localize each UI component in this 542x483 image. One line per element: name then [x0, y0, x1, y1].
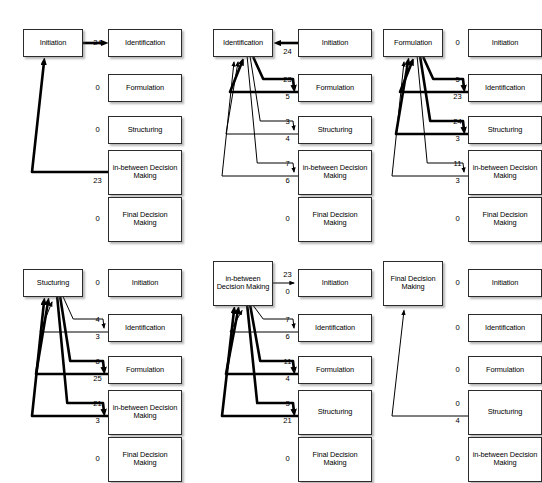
target-box-in-between-decision-making: in-between Decision Making: [468, 150, 542, 195]
target-box-formulation: Formulation: [298, 74, 372, 102]
edge-out-value-final-decision-making: 0: [448, 214, 468, 223]
box-label: Formulation: [485, 366, 525, 374]
target-box-structuring: Structuring: [298, 116, 372, 144]
panel-identification: IdentificationInitiation24Formulation235…: [190, 0, 362, 240]
edge-out-value-identification: 7: [278, 315, 298, 324]
edge-out-value-final-decision-making: 0: [88, 454, 108, 463]
edge-out-value-final-decision-making: 0: [88, 214, 108, 223]
box-label: Identification: [124, 39, 166, 47]
edge-out-value-identification: 24: [88, 38, 108, 47]
box-label: Formulation: [315, 366, 355, 374]
target-box-initiation: Initiation: [468, 29, 542, 57]
box-label: Initiation: [491, 39, 520, 47]
target-box-identification: Identification: [108, 314, 182, 342]
target-box-initiation: Initiation: [468, 269, 542, 297]
box-label: Final Decision Making: [299, 211, 371, 228]
target-box-in-between-decision-making: in-between Decision Making: [108, 150, 182, 195]
box-label: Initiation: [131, 279, 160, 287]
edge-out-value-in-between-decision-making: 11: [448, 159, 468, 168]
edge-out-value-final-decision-making: 0: [278, 214, 298, 223]
panel-formulation: FormulationInitiation0Identification523S…: [360, 0, 532, 240]
edge-out-value-structuring: 24: [448, 117, 468, 126]
target-box-final-decision-making: Final Decision Making: [298, 197, 372, 242]
box-label: Structuring: [127, 126, 164, 134]
edge-in-value-formulation: 4: [278, 374, 298, 383]
edge-in-value-structuring: 3: [448, 134, 468, 143]
box-label: Structuring: [317, 408, 354, 416]
edge-in-value-formulation: 5: [278, 92, 298, 101]
target-box-final-decision-making: Final Decision Making: [298, 437, 372, 482]
target-box-identification: Identification: [298, 314, 372, 342]
edge-in-value-structuring: 4: [448, 416, 468, 425]
edge-in-value-in-between-decision-making: 23: [88, 176, 108, 185]
edge-in-value-identification: 23: [448, 92, 468, 101]
edge-out-value-identification: 5: [448, 75, 468, 84]
box-label: Structuring: [487, 126, 524, 134]
box-label: in-between Decision Making: [109, 164, 181, 181]
edge-in-value-identification: 6: [278, 332, 298, 341]
target-box-in-between-decision-making: in-between Decision Making: [298, 150, 372, 195]
box-label: Final Decision Making: [384, 275, 442, 292]
box-label: Initiation: [39, 39, 68, 47]
edge-out-value-initiation: 0: [448, 38, 468, 47]
panel-final: Final Decision MakingInitiation0Identifi…: [360, 240, 532, 480]
edge-out-value-structuring: 3: [278, 117, 298, 126]
edge-out-value-in-between-decision-making: 0: [448, 454, 468, 463]
source-box-in-between-decision-making: in-between Decision Making: [213, 261, 273, 306]
target-box-initiation: Initiation: [108, 269, 182, 297]
edge-out-value-formulation: 0: [88, 83, 108, 92]
edge-out-value-structuring: 0: [88, 125, 108, 134]
box-label: Formulation: [393, 39, 433, 47]
box-label: in-between Decision Making: [299, 164, 371, 181]
box-label: Initiation: [321, 39, 350, 47]
edge-in-value-structuring: 4: [278, 134, 298, 143]
target-box-structuring: Structuring: [108, 116, 182, 144]
target-box-initiation: Initiation: [298, 269, 372, 297]
box-label: in-between Decision Making: [214, 275, 272, 292]
target-box-identification: Identification: [108, 29, 182, 57]
box-label: Formulation: [125, 366, 165, 374]
edge-out-value-initiation: 0: [88, 278, 108, 287]
box-label: Initiation: [321, 279, 350, 287]
edge-in-value-identification: 3: [88, 332, 108, 341]
edge-out-value-structuring: 3: [278, 399, 298, 408]
box-label: Identification: [484, 324, 526, 332]
edge-out-value-in-between-decision-making: 7: [278, 159, 298, 168]
box-label: Final Decision Making: [299, 451, 371, 468]
box-label: Formulation: [125, 84, 165, 92]
target-box-final-decision-making: Final Decision Making: [468, 197, 542, 242]
edge-out-value-initiation: 0: [448, 278, 468, 287]
target-box-identification: Identification: [468, 314, 542, 342]
target-box-identification: Identification: [468, 74, 542, 102]
target-box-initiation: Initiation: [298, 29, 372, 57]
box-label: Identification: [484, 84, 526, 92]
edge-out-value-identification: 4: [88, 315, 108, 324]
box-label: in-between Decision Making: [469, 451, 541, 468]
edge-in-value-in-between-decision-making: 3: [448, 176, 468, 185]
box-label: Identification: [124, 324, 166, 332]
box-label: Final Decision Making: [109, 211, 181, 228]
source-box-stucturing: Stucturing: [23, 269, 83, 297]
edge-out-value-formulation: 0: [448, 365, 468, 374]
box-label: Final Decision Making: [469, 211, 541, 228]
box-label: Identification: [222, 39, 264, 47]
source-box-formulation: Formulation: [383, 29, 443, 57]
target-box-structuring: Structuring: [468, 390, 542, 435]
box-label: Final Decision Making: [109, 451, 181, 468]
target-box-in-between-decision-making: in-between Decision Making: [468, 437, 542, 482]
panel-structuring: StucturingInitiation0Identification43For…: [0, 240, 190, 480]
target-box-formulation: Formulation: [468, 356, 542, 384]
edge-out-value-in-between-decision-making: 21: [88, 399, 108, 408]
edge-in-value-initiation: 24: [278, 47, 298, 56]
edge-out-value-formulation: 8: [88, 357, 108, 366]
edge-out-value-final-decision-making: 0: [278, 454, 298, 463]
target-box-structuring: Structuring: [298, 390, 372, 435]
edge-out-value-formulation: 11: [278, 357, 298, 366]
target-box-structuring: Structuring: [468, 116, 542, 144]
edge-out-value-identification: 0: [448, 323, 468, 332]
box-label: Formulation: [315, 84, 355, 92]
edge-in-value-formulation: 25: [88, 374, 108, 383]
edge-in-value-structuring: 21: [278, 416, 298, 425]
target-box-in-between-decision-making: in-between Decision Making: [108, 390, 182, 435]
